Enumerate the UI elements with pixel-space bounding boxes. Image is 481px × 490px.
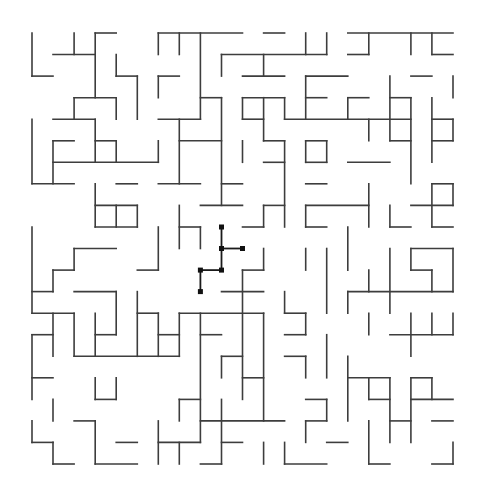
path-node bbox=[219, 225, 224, 230]
path-node bbox=[219, 246, 224, 251]
path-node bbox=[240, 246, 245, 251]
maze-canvas: Maze bbox=[0, 0, 481, 490]
maze-board bbox=[0, 0, 481, 490]
path-node bbox=[219, 268, 224, 273]
path-node bbox=[198, 268, 203, 273]
solution-path bbox=[198, 225, 245, 295]
path-node bbox=[198, 289, 203, 294]
